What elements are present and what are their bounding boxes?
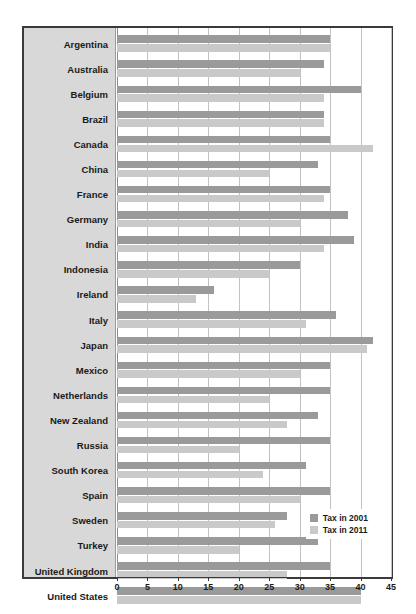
bar-2011 (117, 69, 300, 77)
bar-2011 (117, 396, 269, 404)
category-label: United States (47, 590, 108, 601)
category-row: France (24, 182, 115, 207)
bar-2001 (117, 487, 330, 495)
bar-2011 (117, 421, 287, 429)
x-tick-15 (208, 577, 209, 581)
category-label: Germany (67, 214, 108, 225)
category-label: Canada (74, 138, 108, 149)
x-tick-10 (178, 577, 179, 581)
category-row: Indonesia (24, 257, 115, 282)
bar-2011 (117, 145, 373, 153)
bar-2011 (117, 245, 324, 253)
bar-row (117, 332, 391, 357)
category-row: Canada (24, 131, 115, 156)
category-label: New Zealand (50, 414, 108, 425)
bar-2011 (117, 220, 300, 228)
category-row: United States (24, 583, 115, 608)
bar-2001 (117, 136, 330, 144)
bar-row (117, 257, 391, 282)
bar-row (117, 207, 391, 232)
category-row: Argentina (24, 31, 115, 56)
category-row: Netherlands (24, 382, 115, 407)
bar-row (117, 156, 391, 181)
x-axis: 051015202530354045 (117, 577, 391, 601)
bar-2001 (117, 537, 318, 545)
bar-2011 (117, 94, 324, 102)
bar-2011 (117, 320, 306, 328)
bar-2001 (117, 387, 330, 395)
category-label-panel: ArgentinaAustraliaBelgiumBrazilCanadaChi… (24, 28, 116, 577)
category-row: South Korea (24, 458, 115, 483)
bar-2011 (117, 295, 196, 303)
category-row: Australia (24, 56, 115, 81)
bar-row (117, 282, 391, 307)
bar-2001 (117, 86, 361, 94)
bar-2001 (117, 437, 330, 445)
bar-2001 (117, 261, 300, 269)
bar-row (117, 307, 391, 332)
x-tick-label-0: 0 (114, 582, 119, 592)
x-tick-label-5: 5 (145, 582, 150, 592)
category-row: Japan (24, 332, 115, 357)
bar-row (117, 182, 391, 207)
bar-2011 (117, 446, 239, 454)
bar-2001 (117, 211, 348, 219)
category-label: India (86, 239, 108, 250)
category-row: China (24, 156, 115, 181)
category-row: Turkey (24, 533, 115, 558)
legend-label: Tax in 2011 (323, 525, 368, 535)
category-row: New Zealand (24, 407, 115, 432)
x-tick-5 (147, 577, 148, 581)
x-tick-label-35: 35 (325, 582, 335, 592)
x-tick-20 (239, 577, 240, 581)
category-row: Germany (24, 207, 115, 232)
x-axis-line (117, 577, 391, 578)
x-tick-label-25: 25 (264, 582, 274, 592)
category-row: Brazil (24, 106, 115, 131)
x-tick-45 (391, 577, 392, 581)
bar-row (117, 407, 391, 432)
x-tick-label-10: 10 (173, 582, 183, 592)
x-tick-label-45: 45 (386, 582, 396, 592)
bar-row (117, 31, 391, 56)
legend-swatch-icon (310, 514, 318, 522)
bar-2011 (117, 496, 300, 504)
bar-2011 (117, 521, 275, 529)
category-label: Belgium (71, 88, 108, 99)
category-label-list: ArgentinaAustraliaBelgiumBrazilCanadaChi… (24, 31, 115, 608)
x-tick-25 (269, 577, 270, 581)
category-row: Spain (24, 483, 115, 508)
legend-item[interactable]: Tax in 2011 (310, 524, 368, 536)
bar-2001 (117, 186, 330, 194)
category-label: Indonesia (64, 264, 108, 275)
bar-2001 (117, 512, 287, 520)
bar-row (117, 483, 391, 508)
category-label: South Korea (52, 465, 108, 476)
bar-row (117, 458, 391, 483)
bar-row (117, 81, 391, 106)
bar-2001 (117, 362, 330, 370)
x-tick-30 (300, 577, 301, 581)
category-label: Japan (81, 339, 108, 350)
category-label: Italy (89, 314, 108, 325)
category-label: Mexico (76, 364, 108, 375)
bar-row (117, 131, 391, 156)
bar-row (117, 382, 391, 407)
bar-row (117, 56, 391, 81)
bar-2001 (117, 161, 318, 169)
x-tick-label-40: 40 (356, 582, 366, 592)
category-label: Netherlands (53, 389, 108, 400)
bar-2011 (117, 345, 367, 353)
bar-2001 (117, 111, 324, 119)
bar-2011 (117, 170, 269, 178)
bar-2011 (117, 44, 330, 52)
category-label: Russia (77, 440, 108, 451)
bar-2001 (117, 337, 373, 345)
category-label: United Kingdom (35, 565, 108, 576)
bar-2011 (117, 370, 300, 378)
legend-item[interactable]: Tax in 2001 (310, 512, 368, 524)
chart-legend: Tax in 2001Tax in 2011 (306, 509, 373, 539)
chart-frame: ArgentinaAustraliaBelgiumBrazilCanadaChi… (22, 26, 393, 579)
category-row: Italy (24, 307, 115, 332)
x-tick-35 (330, 577, 331, 581)
